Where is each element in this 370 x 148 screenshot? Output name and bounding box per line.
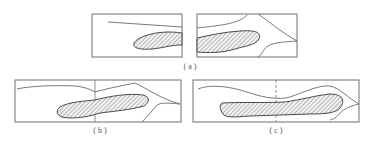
panel-b (15, 80, 181, 122)
panel-a-right (197, 14, 297, 57)
panel-b-lower-contour (142, 103, 180, 122)
panel-a-left-hatched-body (134, 32, 182, 49)
panel-b-hatched-body (57, 94, 148, 118)
figure-canvas: ( a ) ( b ) ( c ) (0, 0, 370, 148)
panel-a-right-hatched-body (197, 31, 260, 53)
panel-a-left-upper-contour (108, 22, 182, 27)
panel-c (193, 80, 359, 122)
panel-b-label: ( b ) (93, 126, 107, 135)
panel-a-label: ( a ) (184, 62, 197, 71)
panel-c-label: ( c ) (270, 126, 283, 135)
panel-a-right-lower-contour (258, 41, 297, 57)
panel-a-left (92, 14, 182, 57)
panel-c-hatched-body (220, 94, 343, 117)
